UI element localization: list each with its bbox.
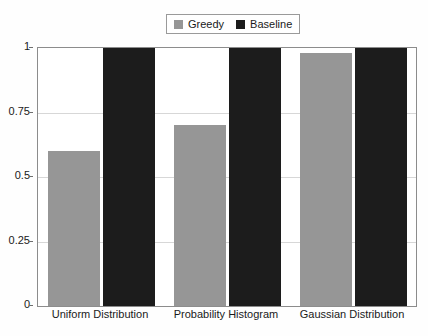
y-tick-mark [29, 241, 33, 242]
bar-greedy-1 [48, 151, 100, 306]
legend-swatch-baseline [236, 20, 245, 29]
legend-entry-baseline: Baseline [236, 19, 292, 30]
bar-greedy-3 [300, 53, 352, 306]
x-tick-label-3: Gaussian Distribution [289, 308, 415, 320]
bar-baseline-3 [355, 48, 407, 306]
plot-area [38, 48, 416, 306]
x-tick-label-1: Uniform Distribution [37, 308, 163, 320]
plot-frame [37, 47, 417, 307]
y-tick-mark [29, 112, 33, 113]
bar-greedy-2 [174, 125, 226, 306]
bar-chart: Greedy Baseline 00.250.50.751 Uniform Di… [0, 0, 428, 336]
x-axis: Uniform DistributionProbability Histogra… [37, 308, 417, 328]
y-tick-mark [29, 176, 33, 177]
y-axis: 00.250.50.751 [0, 47, 33, 305]
bar-baseline-2 [229, 48, 281, 306]
y-tick-label: 0.75 [9, 106, 30, 117]
legend-label-greedy: Greedy [188, 19, 224, 30]
bar-baseline-1 [103, 48, 155, 306]
legend-entry-greedy: Greedy [174, 19, 224, 30]
y-tick-mark [29, 305, 33, 306]
chart-legend: Greedy Baseline [166, 14, 300, 34]
y-tick-label: 0.5 [15, 170, 30, 181]
legend-swatch-greedy [174, 20, 183, 29]
y-tick-mark [29, 47, 33, 48]
y-tick-label: 0.25 [9, 235, 30, 246]
legend-label-baseline: Baseline [250, 19, 292, 30]
x-tick-label-2: Probability Histogram [163, 308, 289, 320]
